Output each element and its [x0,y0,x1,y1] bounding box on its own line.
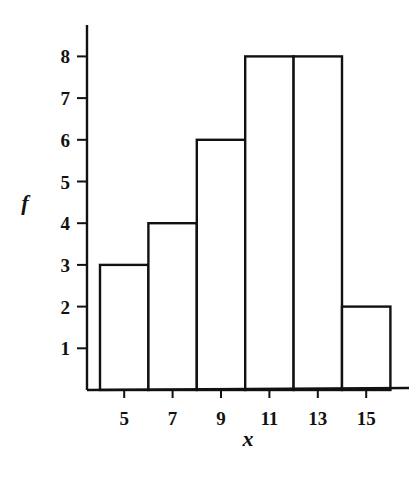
histogram-bar [197,140,245,390]
y-ticks-group: 12345678 [61,46,88,359]
y-tick-label: 8 [61,46,71,67]
histogram-bar [294,56,342,390]
x-tick-label: 11 [260,408,278,429]
y-tick-label: 2 [61,297,71,318]
x-tick-label: 7 [168,408,178,429]
histogram-bar [342,307,390,390]
x-axis-label: x [242,426,254,451]
x-tick-label: 15 [357,408,376,429]
y-tick-label: 4 [61,213,71,234]
x-tick-label: 5 [119,408,129,429]
histogram-bar [245,56,293,390]
x-tick-label: 9 [216,408,226,429]
histogram-bar [100,265,148,390]
y-tick-label: 3 [61,255,71,276]
y-tick-label: 7 [61,88,71,109]
histogram-bar [148,223,196,390]
bars-group [100,56,390,390]
x-ticks-group: 579111315 [119,390,375,429]
histogram-chart: 12345678 579111315 f x [0,0,417,479]
y-tick-label: 5 [61,172,71,193]
y-tick-label: 1 [61,338,71,359]
y-axis-label: f [21,190,31,215]
x-tick-label: 13 [308,408,327,429]
y-tick-label: 6 [61,130,71,151]
